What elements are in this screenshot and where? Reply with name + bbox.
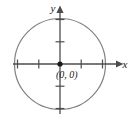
origin-point-label: (0, 0) [56,69,78,81]
y-axis-arrowhead-icon [56,6,63,14]
graph-canvas: x y (0, 0) [0,0,132,122]
origin-point-marker [57,61,62,66]
y-axis-label: y [50,2,56,14]
x-axis-label: x [122,58,128,70]
coordinate-plane-figure: x y (0, 0) [0,0,132,122]
